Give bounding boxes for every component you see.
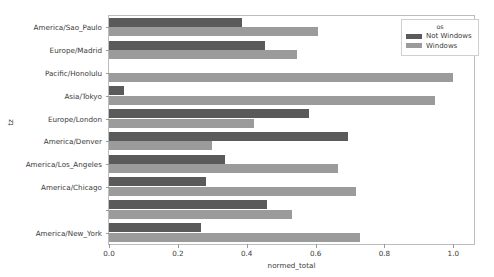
y-tick-label: Europe/London — [0, 114, 102, 123]
bar-not-windows — [109, 86, 124, 95]
x-tick-label: 0.4 — [241, 249, 252, 258]
bar-not-windows — [109, 109, 309, 118]
x-tick-label: 1.0 — [448, 249, 459, 258]
y-tick — [106, 27, 110, 28]
x-tick — [109, 244, 110, 248]
x-tick — [316, 244, 317, 248]
y-tick — [106, 141, 110, 142]
legend-swatch-not-windows — [406, 34, 422, 39]
bar-windows — [109, 233, 360, 242]
y-tick — [106, 187, 110, 188]
bar-not-windows — [109, 155, 225, 164]
y-tick — [106, 164, 110, 165]
y-tick — [106, 210, 110, 211]
y-tick-label: America/Los_Angeles — [0, 160, 102, 169]
y-tick — [106, 233, 110, 234]
bar-not-windows — [109, 200, 267, 209]
y-tick-label: Asia/Tokyo — [0, 91, 102, 100]
y-tick — [106, 96, 110, 97]
y-tick — [106, 73, 110, 74]
x-tick — [453, 244, 454, 248]
y-tick — [106, 119, 110, 120]
legend-item-not-windows: Not Windows — [406, 32, 474, 40]
bar-windows — [109, 187, 356, 196]
x-tick — [178, 244, 179, 248]
bar-windows — [109, 50, 297, 59]
bar-windows — [109, 141, 212, 150]
y-tick-label: America/New_York — [0, 228, 102, 237]
legend-label-windows: Windows — [426, 42, 457, 50]
x-tick-label: 0.2 — [172, 249, 183, 258]
x-tick-label: 0.6 — [310, 249, 321, 258]
bar-windows — [109, 119, 254, 128]
bar-windows — [109, 210, 292, 219]
bar-not-windows — [109, 177, 206, 186]
y-tick — [106, 50, 110, 51]
bar-windows — [109, 96, 435, 105]
y-tick-label: America/Sao_Paulo — [0, 23, 102, 32]
y-tick-label: America/Chicago — [0, 183, 102, 192]
bar-not-windows — [109, 41, 265, 50]
y-tick-label: Europe/Madrid — [0, 46, 102, 55]
legend: os Not Windows Windows — [401, 19, 479, 56]
chart-figure: tz normed_total os Not Windows Windows A… — [0, 0, 494, 277]
bar-windows — [109, 73, 453, 82]
legend-title: os — [406, 23, 474, 30]
y-tick-label: Pacific/Honolulu — [0, 69, 102, 78]
x-axis-label: normed_total — [108, 261, 475, 270]
x-tick-label: 0.8 — [379, 249, 390, 258]
bar-windows — [109, 27, 318, 36]
x-tick — [247, 244, 248, 248]
bar-not-windows — [109, 18, 242, 27]
x-tick-label: 0.0 — [103, 249, 114, 258]
y-tick-label: America/Denver — [0, 137, 102, 146]
legend-label-not-windows: Not Windows — [426, 32, 472, 40]
x-tick — [384, 244, 385, 248]
bar-not-windows — [109, 132, 348, 141]
bar-not-windows — [109, 223, 201, 232]
bar-windows — [109, 164, 338, 173]
legend-item-windows: Windows — [406, 42, 474, 50]
legend-swatch-windows — [406, 43, 422, 48]
